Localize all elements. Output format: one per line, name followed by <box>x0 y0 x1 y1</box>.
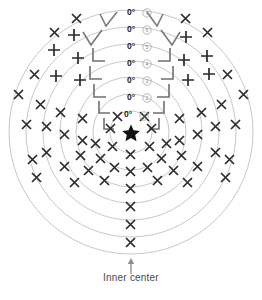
x-icon <box>175 136 184 145</box>
x-icon <box>126 184 135 193</box>
plus-icon <box>180 31 192 43</box>
star-icon <box>122 125 140 142</box>
x-icon <box>60 130 69 139</box>
ring-label-5: 0° 5 <box>127 41 151 51</box>
x-icon <box>203 28 212 37</box>
corner-icon <box>158 48 170 61</box>
inner-center-caption: Inner center <box>0 272 262 283</box>
x-icon <box>60 162 69 171</box>
angle-label: 0° <box>124 109 133 119</box>
angle-label: 0° <box>127 41 136 51</box>
x-icon <box>56 108 65 117</box>
x-icon <box>126 167 135 176</box>
x-icon <box>239 90 248 99</box>
corner-icon <box>99 101 110 113</box>
angle-label: 0° <box>127 24 136 34</box>
x-icon <box>183 178 192 187</box>
x-icon <box>50 28 59 37</box>
corner-icon <box>161 66 173 79</box>
ring-label-3: 0° 3 <box>127 75 151 85</box>
plus-icon <box>48 44 60 56</box>
x-icon <box>221 173 230 182</box>
index-label: 6 <box>146 27 149 33</box>
index-label: 1 <box>143 113 146 119</box>
corner-icon <box>94 84 106 97</box>
x-icon <box>113 112 122 121</box>
x-icon <box>78 114 87 123</box>
x-icon <box>126 238 135 247</box>
x-icon <box>32 173 41 182</box>
check-icon <box>147 12 163 26</box>
x-icon <box>217 100 226 109</box>
angle-label: 0° <box>127 92 136 102</box>
x-icon <box>197 108 206 117</box>
ring-label-1: 0° 1 <box>124 109 148 120</box>
plus-icon <box>201 50 213 62</box>
x-icon <box>91 139 100 148</box>
polar-diagram: 0° 7 0° 6 0° 5 0° 4 0° 3 <box>0 0 262 300</box>
x-icon <box>193 162 202 171</box>
index-label: 4 <box>146 61 149 67</box>
index-label: 2 <box>146 95 149 101</box>
x-icon <box>78 136 87 145</box>
plus-icon <box>203 68 215 80</box>
x-icon <box>14 90 23 99</box>
x-icon <box>153 176 162 185</box>
plus-icon <box>178 54 190 66</box>
x-icon <box>175 114 184 123</box>
diagram-canvas: 0° 7 0° 6 0° 5 0° 4 0° 3 <box>0 0 262 300</box>
index-label: 3 <box>146 78 149 84</box>
plus-icon <box>72 52 84 64</box>
x-icon <box>223 70 232 79</box>
plus-icon <box>68 29 80 41</box>
angle-label: 0° <box>127 75 136 85</box>
x-icon <box>76 151 85 160</box>
x-icon <box>30 70 39 79</box>
center-star <box>122 125 140 142</box>
x-icon <box>36 100 45 109</box>
plus-icon <box>74 74 86 86</box>
ring-label-7: 0° 7 <box>127 7 151 17</box>
x-icon <box>70 178 79 187</box>
ring-label-2: 0° 2 <box>127 92 151 102</box>
check-icon <box>100 12 117 26</box>
x-icon <box>177 151 186 160</box>
angle-label: 0° <box>127 7 136 17</box>
ring-label-6: 0° 6 <box>127 24 151 34</box>
x-icon <box>126 220 135 229</box>
ring-label-4: 0° 4 <box>127 58 151 68</box>
index-label: 7 <box>146 10 149 16</box>
x-icon <box>126 150 135 159</box>
x-icon <box>193 130 202 139</box>
x-icon <box>100 176 109 185</box>
index-label: 5 <box>146 44 149 50</box>
x-icon <box>181 14 190 23</box>
ring-label-group: 0° 7 0° 6 0° 5 0° 4 0° 3 <box>124 7 151 120</box>
x-icon <box>162 139 171 148</box>
x-icon <box>72 14 81 23</box>
angle-label: 0° <box>127 58 136 68</box>
